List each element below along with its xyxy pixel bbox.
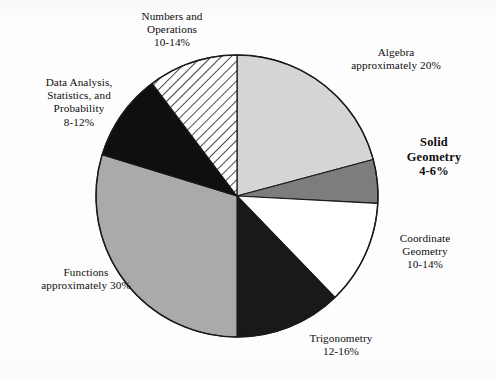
slice-label-line: Operations [106,23,238,36]
slice-label-line: Functions [6,266,166,279]
slice-label-numbers-and-operations: Numbers and Operations 10-14% [106,10,238,50]
slice-label-line: Solid [382,135,486,150]
slice-label-line: Geometry [368,245,482,258]
slice-label-value: 12-16% [278,345,404,358]
slice-label-value: approximately 30% [6,279,166,292]
slice-label-data-analysis: Data Analysis, Statistics, and Probabili… [12,76,146,129]
slice-label-trigonometry: Trigonometry 12-16% [278,332,404,358]
slice-label-line: Trigonometry [278,332,404,345]
slice-label-value: 4-6% [382,164,486,179]
slice-label-line: Probability [12,102,146,115]
slice-label-solid-geometry: Solid Geometry 4-6% [382,135,486,179]
slice-label-coordinate-geometry: Coordinate Geometry 10-14% [368,232,482,272]
slice-label-value: 10-14% [368,258,482,271]
slice-label-line: Statistics, and [12,89,146,102]
slice-label-value: 10-14% [106,36,238,49]
slice-label-line: Coordinate [368,232,482,245]
slice-label-functions: Functions approximately 30% [6,266,166,292]
slice-label-line: Algebra [322,46,470,59]
slice-label-value: approximately 20% [322,59,470,72]
slice-label-line: Numbers and [106,10,238,23]
slice-label-line: Data Analysis, [12,76,146,89]
pie-chart-figure: Numbers and Operations 10-14% Data Analy… [0,0,496,379]
slice-label-algebra: Algebra approximately 20% [322,46,470,72]
slice-label-value: 8-12% [12,116,146,129]
slice-label-line: Geometry [382,150,486,165]
